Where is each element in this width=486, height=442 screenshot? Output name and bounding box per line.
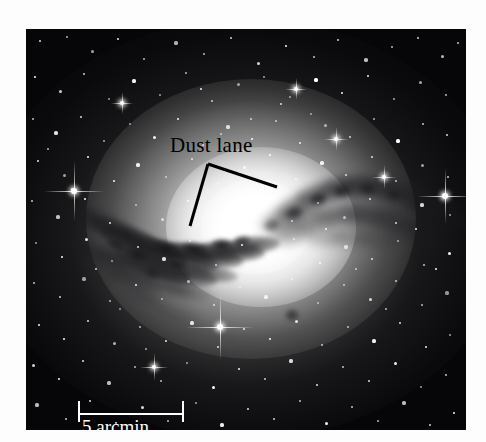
star [37,160,39,162]
star [395,222,398,225]
star [373,118,376,121]
star [212,386,215,389]
star [153,136,156,139]
star [421,164,424,167]
star [35,242,38,245]
star [63,174,66,177]
star [226,125,229,128]
star [111,260,113,262]
star [394,362,397,365]
star [369,198,371,200]
star [91,50,94,53]
star [289,96,292,99]
star [368,380,370,382]
star [56,215,59,218]
star [177,118,179,120]
star [159,94,161,96]
star [134,366,136,368]
star [137,246,140,249]
star [280,103,283,106]
scale-bar-cap-left [78,401,80,422]
star [377,420,380,423]
star [269,154,271,156]
star [83,73,85,75]
star [399,322,401,324]
star [109,300,111,302]
star [211,100,213,102]
star [441,55,444,58]
star [445,374,448,377]
star [237,83,240,86]
star [293,238,295,240]
star [135,204,137,206]
star [58,378,60,380]
star [269,338,271,340]
star [420,203,423,206]
star [135,284,138,287]
star [119,308,122,311]
star [320,161,323,164]
star [243,328,246,331]
star [349,136,351,138]
star [449,214,451,216]
star [247,408,249,410]
star [415,228,418,231]
star [187,280,190,283]
star [448,252,451,255]
star [273,418,276,421]
star [213,304,215,306]
star [61,256,63,258]
scale-bar-cap-right [182,401,184,422]
star [47,148,49,150]
star [314,78,317,81]
star [230,37,233,40]
star [291,278,293,280]
star [117,38,119,40]
star [87,156,89,158]
star [238,368,240,370]
star [165,176,167,178]
star [422,123,424,125]
star [421,304,424,307]
star [429,424,431,426]
star [65,418,67,420]
star [285,45,287,47]
figure-container: 5 arcmin Dust lane [0,0,486,442]
star [66,36,68,38]
star [220,423,223,426]
star [319,262,322,265]
star [341,92,343,94]
astronomical-image-plate: 5 arcmin [26,29,466,430]
star [34,76,36,78]
star [316,384,318,386]
star [457,42,459,44]
star [161,298,163,300]
scale-bar-label: 5 arcmin [82,416,149,430]
star [143,58,145,60]
star [213,224,216,227]
star [395,180,397,182]
star [32,364,35,367]
star [54,131,57,134]
star [371,156,374,159]
star [275,120,278,123]
star [217,182,219,184]
star [95,268,97,270]
star [425,346,428,349]
star [396,139,399,142]
star [351,406,353,408]
star [85,238,88,241]
star [445,291,448,294]
star [317,302,320,305]
star [372,339,375,342]
star [38,324,40,326]
dust-lane-label: Dust lane [170,134,253,156]
star [80,116,82,118]
star [324,124,327,127]
star [185,72,188,75]
star [241,244,243,246]
star [200,88,202,90]
star [391,46,393,48]
star [364,58,367,61]
star [369,298,372,301]
